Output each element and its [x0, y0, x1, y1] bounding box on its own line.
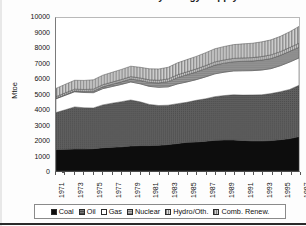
x-tick-mark: [64, 172, 65, 175]
x-tick-mark: [300, 172, 301, 175]
x-tick-mark: [253, 172, 254, 175]
legend-label: Gas: [109, 207, 122, 216]
x-tick-mark: [55, 172, 56, 175]
comb-renew-swatch: [213, 209, 219, 215]
legend-label: Coal: [59, 207, 74, 216]
x-tick-label: 1989: [228, 182, 235, 198]
x-tick-label: 1987: [209, 182, 216, 198]
chart-legend: CoalOilGasNuclearHydro/Oth.Comb. Renew.: [34, 204, 286, 219]
x-tick-mark: [215, 172, 216, 175]
x-tick-label: 1975: [96, 182, 103, 198]
x-tick-mark: [244, 172, 245, 175]
legend-item[interactable]: Gas: [101, 207, 122, 216]
x-tick-label: 1971: [58, 182, 65, 198]
legend-item[interactable]: Hydro/Oth.: [165, 207, 208, 216]
legend-label: Hydro/Oth.: [173, 207, 208, 216]
plot-area: [55, 17, 300, 172]
x-tick-label: 1995: [284, 182, 291, 198]
x-tick-mark: [159, 172, 160, 175]
chart-title: World Total Primary Energy Supply: [0, 0, 306, 2]
legend-label: Oil: [87, 207, 96, 216]
x-tick-label: 1977: [115, 182, 122, 198]
x-tick-mark: [234, 172, 235, 175]
x-tick-mark: [74, 172, 75, 175]
y-axis-tick-labels: 1000090008000700060005000400030002000100…: [10, 11, 52, 178]
chart-page: World Total Primary Energy Supply Mtoe 1…: [0, 0, 306, 226]
legend-label: Nuclear: [135, 207, 160, 216]
x-tick-label: 1993: [266, 182, 273, 198]
legend-item[interactable]: Coal: [51, 207, 74, 216]
bottom-border: [0, 223, 306, 225]
y-tick-label: 1000: [34, 153, 50, 161]
x-tick-mark: [168, 172, 169, 175]
x-tick-label: 1991: [247, 182, 254, 198]
x-tick-mark: [281, 172, 282, 175]
x-tick-mark: [262, 172, 263, 175]
x-tick-label: 1973: [77, 182, 84, 198]
gas-swatch: [101, 209, 107, 215]
x-tick-label: 1983: [171, 182, 178, 198]
x-tick-label: 1985: [190, 182, 197, 198]
x-tick-label: 1981: [152, 182, 159, 198]
x-axis-tick-labels: 1971197319751977197919811983198519871989…: [55, 176, 301, 200]
oil-swatch: [79, 209, 85, 215]
x-tick-mark: [225, 172, 226, 175]
x-tick-mark: [187, 172, 188, 175]
x-tick-mark: [121, 172, 122, 175]
x-tick-mark: [112, 172, 113, 175]
y-tick-label: 7000: [34, 60, 50, 68]
coal-swatch: [51, 209, 57, 215]
legend-item[interactable]: Oil: [79, 207, 96, 216]
hydro-swatch: [165, 209, 171, 215]
y-tick-label: 9000: [34, 29, 50, 37]
legend-item[interactable]: Comb. Renew.: [213, 207, 269, 216]
x-tick-label: 1997: [303, 182, 306, 198]
y-tick-label: 8000: [34, 44, 50, 52]
y-tick-label: 6000: [34, 75, 50, 83]
x-tick-mark: [93, 172, 94, 175]
y-tick-label: 5000: [34, 91, 50, 99]
x-tick-label: 1979: [134, 182, 141, 198]
x-tick-mark: [178, 172, 179, 175]
x-tick-mark: [206, 172, 207, 175]
y-tick-label: 4000: [34, 106, 50, 114]
y-tick-label: 3000: [34, 122, 50, 130]
y-tick-label: 10000: [31, 13, 50, 21]
x-tick-mark: [196, 172, 197, 175]
x-tick-mark: [272, 172, 273, 175]
x-tick-mark: [149, 172, 150, 175]
x-tick-mark: [102, 172, 103, 175]
y-tick-label: 0: [46, 168, 50, 176]
nuclear-swatch: [127, 209, 133, 215]
legend-item[interactable]: Nuclear: [127, 207, 160, 216]
x-tick-mark: [83, 172, 84, 175]
stacked-area-series: [56, 18, 299, 171]
x-tick-mark: [130, 172, 131, 175]
legend-label: Comb. Renew.: [221, 207, 269, 216]
left-edge-artifact: [0, 0, 2, 226]
x-tick-mark: [291, 172, 292, 175]
x-tick-mark: [140, 172, 141, 175]
y-tick-label: 2000: [34, 137, 50, 145]
